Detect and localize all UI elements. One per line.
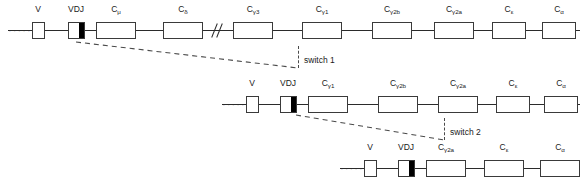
- segment-label-c-mu: Cμ: [111, 4, 121, 15]
- segment-c-gamma2a: [426, 160, 466, 177]
- segment-label-c-epsilon: Cε: [505, 4, 514, 15]
- segment-label-c-delta: Cδ: [178, 4, 188, 15]
- segment-c-alpha: [540, 160, 580, 177]
- segment-label-c-gamma2b: Cγ2b: [390, 78, 406, 89]
- segment-label-c-alpha: Cα: [555, 142, 565, 153]
- segment-c-gamma1: [302, 22, 342, 39]
- sequence-break-icon: [211, 23, 224, 38]
- row-2-after-switch-1: ····· V VDJ Cγ1 Cγ2b Cγ2a Cε: [222, 88, 580, 122]
- segment-label-c-gamma1: Cγ1: [316, 4, 329, 15]
- segment-label-c-alpha: Cα: [556, 78, 566, 89]
- segment-c-alpha: [542, 22, 576, 39]
- switch-2-tick: [444, 118, 445, 140]
- segment-v: [246, 96, 259, 113]
- segment-c-gamma2a: [438, 96, 478, 113]
- segment-label-c-gamma3: Cγ3: [247, 4, 260, 15]
- switch-2-label: switch 2: [450, 127, 481, 138]
- segment-c-mu: [96, 22, 136, 39]
- leader-dots: ·····: [8, 26, 32, 35]
- segment-c-gamma3: [233, 22, 273, 39]
- segment-c-gamma2b: [378, 96, 418, 113]
- vdj-switch-bar: [291, 97, 296, 112]
- switch-1-tick: [298, 46, 299, 68]
- segment-v: [364, 160, 377, 177]
- segment-label-c-gamma2a: Cγ2a: [450, 78, 466, 89]
- segment-label-vdj: VDJ: [398, 142, 414, 153]
- segment-label-vdj: VDJ: [280, 78, 296, 89]
- row-1-germline-locus: ····· V VDJ Cμ Cδ Cγ3: [8, 14, 580, 48]
- segment-label-c-gamma1: Cγ1: [322, 78, 335, 89]
- segment-v: [32, 22, 45, 39]
- segment-label-v: V: [249, 78, 255, 89]
- segment-c-gamma2b: [372, 22, 412, 39]
- segment-label-c-alpha: Cα: [554, 4, 564, 15]
- segment-label-c-gamma2a: Cγ2a: [438, 142, 454, 153]
- segment-vdj: [398, 160, 415, 177]
- switch-1-label: switch 1: [304, 55, 335, 66]
- segment-vdj: [280, 96, 297, 113]
- csr-diagram: ····· V VDJ Cμ Cδ Cγ3: [0, 0, 588, 187]
- segment-c-epsilon: [492, 22, 526, 39]
- segment-label-c-gamma2a: Cγ2a: [446, 4, 462, 15]
- segment-c-alpha: [544, 96, 578, 113]
- segment-c-epsilon: [484, 160, 524, 177]
- segment-c-epsilon: [496, 96, 530, 113]
- segment-c-gamma1: [308, 96, 348, 113]
- segment-c-gamma2a: [434, 22, 474, 39]
- segment-c-delta: [163, 22, 203, 39]
- vdj-switch-bar: [79, 23, 84, 38]
- vdj-switch-bar: [409, 161, 414, 176]
- row-3-after-switch-2: ····· V VDJ Cγ2a Cε Cα: [340, 152, 580, 186]
- segment-label-c-gamma2b: Cγ2b: [384, 4, 400, 15]
- segment-label-c-epsilon: Cε: [509, 78, 518, 89]
- segment-label-v: V: [367, 142, 373, 153]
- leader-dots: ·····: [222, 100, 246, 109]
- segment-label-c-epsilon: Cε: [500, 142, 509, 153]
- segment-label-v: V: [35, 4, 41, 15]
- segment-label-vdj: VDJ: [68, 4, 84, 15]
- leader-dots: ·····: [340, 164, 364, 173]
- segment-vdj: [68, 22, 85, 39]
